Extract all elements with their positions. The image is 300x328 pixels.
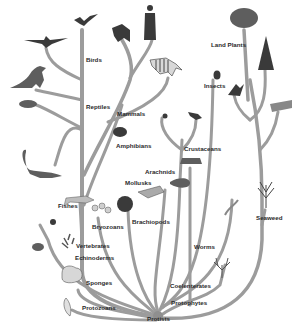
branch-brachiopods xyxy=(128,210,158,314)
label-birds: Birds xyxy=(86,57,102,63)
branch-mollusks xyxy=(155,190,165,312)
fern-icon xyxy=(228,84,244,96)
label-fishes: Fishes xyxy=(58,203,78,209)
label-protozoans: Protozoans xyxy=(82,305,116,311)
label-reptiles: Reptiles xyxy=(86,104,110,110)
branch-turtle xyxy=(34,104,82,128)
branch-pterosaur xyxy=(46,48,82,80)
pterosaur-icon xyxy=(24,36,68,48)
label-protists: Protists xyxy=(147,316,170,322)
horseshoe-crab-icon xyxy=(170,178,190,187)
sand-dollar-icon xyxy=(32,243,44,251)
label-mollusks: Mollusks xyxy=(125,180,151,186)
sea-star-icon xyxy=(62,234,74,248)
protozoan-icon xyxy=(64,298,71,316)
label-mammals: Mammals xyxy=(117,111,145,117)
coral-icon xyxy=(214,258,230,278)
moss-icon xyxy=(270,100,292,112)
label-coelenterates: Coelenterates xyxy=(170,283,211,289)
label-brachiopods: Brachiopods xyxy=(132,219,170,225)
label-insects: Insects xyxy=(204,83,225,89)
spider-icon xyxy=(163,114,168,119)
branch-spider xyxy=(162,118,182,150)
label-crustaceans: Crustaceans xyxy=(184,146,221,152)
zebra-icon xyxy=(150,58,182,76)
label-worms: Worms xyxy=(194,244,215,250)
chimpanzee-icon xyxy=(112,24,130,42)
label-seaweed: Seaweed xyxy=(256,215,282,221)
branch-moss xyxy=(260,112,278,150)
turtle-icon xyxy=(19,100,37,108)
illustrations xyxy=(10,5,292,316)
sea-urchin-icon xyxy=(50,219,56,225)
bryozoan-icon xyxy=(92,203,111,213)
branch-human xyxy=(130,40,152,78)
label-protophytes: Protophytes xyxy=(171,300,207,306)
label-sponges: Sponges xyxy=(86,280,112,286)
beetle-icon xyxy=(214,71,221,80)
label-land-plants: Land Plants xyxy=(211,42,246,48)
scorpion-icon xyxy=(188,112,202,120)
mollusk-icon xyxy=(138,186,164,198)
human-icon xyxy=(144,5,156,40)
branch-plesiosaur xyxy=(55,128,82,165)
label-arachnids: Arachnids xyxy=(145,169,175,175)
frog-icon xyxy=(113,127,127,137)
deciduous-tree-icon xyxy=(230,8,258,28)
tree-of-life-diagram xyxy=(0,0,300,328)
branch-dinosaur xyxy=(36,90,82,100)
branch-amphibians xyxy=(84,105,122,205)
label-amphibians: Amphibians xyxy=(116,143,151,149)
label-vertebrates: Vertebrates xyxy=(76,243,110,249)
sponge-icon xyxy=(62,266,82,283)
label-bryozoans: Bryozoans xyxy=(92,224,124,230)
eagle-icon xyxy=(74,14,98,26)
label-echinoderms: Echinoderms xyxy=(75,255,114,261)
brachiopod-shell-icon xyxy=(117,196,133,212)
dinosaur-icon xyxy=(10,66,46,88)
crab-icon xyxy=(180,158,202,164)
branch-insects xyxy=(162,80,213,308)
conifer-icon xyxy=(258,36,274,70)
